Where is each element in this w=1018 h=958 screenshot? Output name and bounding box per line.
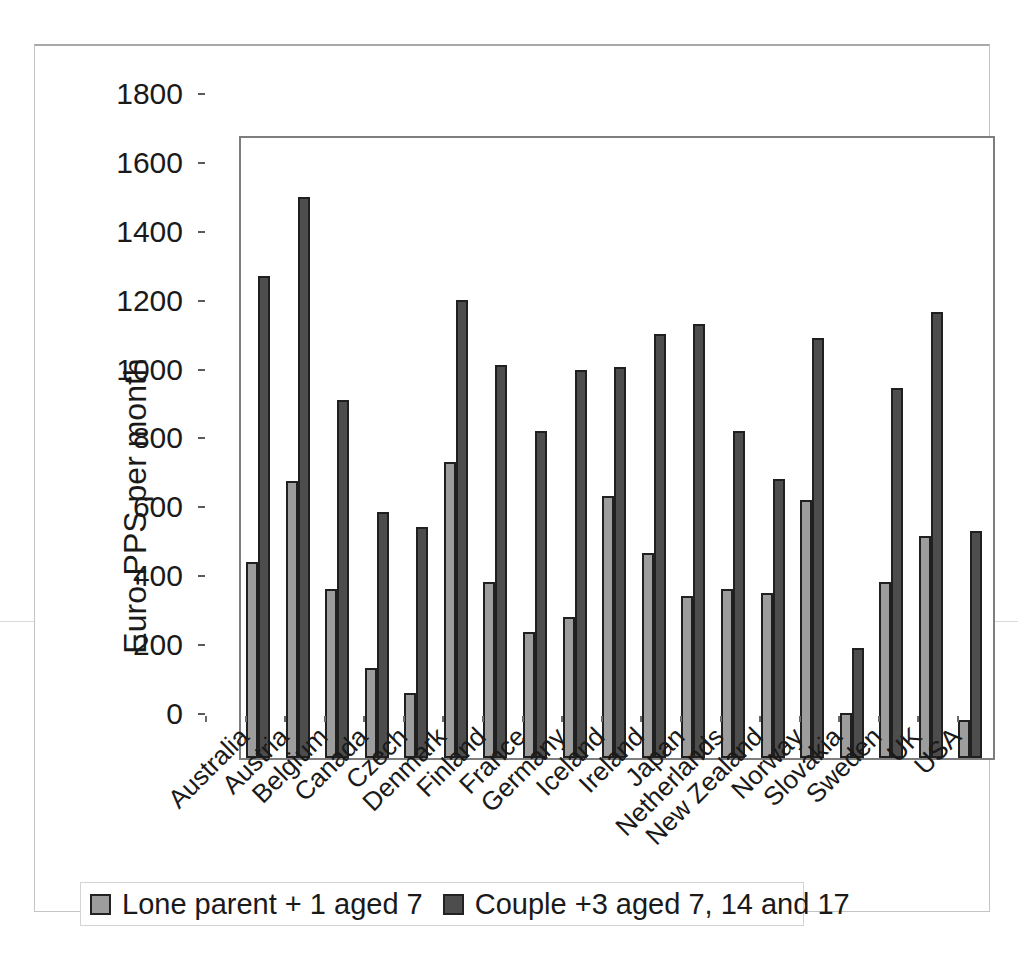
y-tick-label-400: 400 [53, 561, 183, 591]
y-tick-label-800: 800 [53, 423, 183, 453]
legend-swatch-lone-parent [90, 894, 111, 915]
bar-lone-parent-sweden [879, 582, 891, 758]
bar-couple-denmark [456, 300, 468, 758]
bar-couple-austria [298, 197, 310, 758]
bar-couple-usa [970, 531, 982, 758]
bar-couple-uk [931, 312, 943, 758]
y-tick-label-1600: 1600 [53, 148, 183, 178]
bars-layer [241, 138, 993, 758]
x-tick-mark [799, 716, 801, 722]
y-tick-mark [198, 644, 205, 646]
bar-couple-australia [258, 276, 270, 758]
bar-lone-parent-denmark [444, 462, 456, 758]
legend-swatch-couple [443, 894, 464, 915]
x-tick-mark [245, 716, 247, 722]
bar-couple-canada [377, 512, 389, 758]
y-tick-mark [198, 437, 205, 439]
x-tick-mark [680, 716, 682, 722]
y-tick-label-1000: 1000 [53, 355, 183, 385]
x-tick-mark [878, 716, 880, 722]
x-tick-mark [720, 716, 722, 722]
page: Euro-PPS per month 020040060080010001200… [0, 0, 1018, 958]
bar-couple-new-zealand [773, 479, 785, 758]
bar-couple-germany [575, 370, 587, 758]
y-tick-label-200: 200 [53, 630, 183, 660]
y-tick-mark [198, 93, 205, 95]
bar-couple-norway [812, 338, 824, 758]
bar-lone-parent-netherlands [721, 589, 733, 758]
legend-item-lone-parent: Lone parent + 1 aged 7 [90, 888, 423, 921]
bar-lone-parent-japan [681, 596, 693, 758]
x-tick-mark [957, 716, 959, 722]
legend: Lone parent + 1 aged 7 Couple +3 aged 7,… [80, 882, 804, 926]
plot-area [239, 136, 995, 760]
bar-couple-czech [416, 527, 428, 758]
bar-couple-iceland [614, 367, 626, 758]
bar-couple-france [535, 431, 547, 758]
x-tick-mark [284, 716, 286, 722]
y-tick-mark [198, 231, 205, 233]
x-tick-mark [917, 716, 919, 722]
x-tick-mark [601, 716, 603, 722]
bar-couple-netherlands [733, 431, 745, 758]
bar-couple-finland [495, 365, 507, 758]
y-tick-mark [198, 506, 205, 508]
x-tick-mark [561, 716, 563, 722]
legend-label-couple: Couple +3 aged 7, 14 and 17 [475, 888, 850, 921]
y-tick-label-1400: 1400 [53, 217, 183, 247]
bar-lone-parent-new-zealand [761, 593, 773, 758]
bar-couple-belgium [337, 400, 349, 758]
bar-couple-japan [693, 324, 705, 758]
y-tick-mark [198, 575, 205, 577]
bar-lone-parent-norway [800, 500, 812, 758]
y-tick-label-600: 600 [53, 492, 183, 522]
x-tick-mark [482, 716, 484, 722]
y-tick-mark [198, 713, 205, 715]
y-tick-label-1800: 1800 [53, 79, 183, 109]
y-tick-label-1200: 1200 [53, 286, 183, 316]
bar-lone-parent-finland [483, 582, 495, 758]
x-tick-mark [759, 716, 761, 722]
bar-lone-parent-austria [286, 481, 298, 758]
bar-lone-parent-belgium [325, 589, 337, 758]
x-tick-mark [363, 716, 365, 722]
x-tick-mark [522, 716, 524, 722]
y-tick-mark [198, 369, 205, 371]
x-tick-mark [442, 716, 444, 722]
x-tick-mark [403, 716, 405, 722]
y-tick-mark [198, 300, 205, 302]
bar-lone-parent-iceland [602, 496, 614, 758]
bar-lone-parent-uk [919, 536, 931, 758]
x-tick-mark [838, 716, 840, 722]
chart-figure: Euro-PPS per month 020040060080010001200… [34, 44, 990, 912]
y-tick-label-0: 0 [53, 699, 183, 729]
bar-lone-parent-ireland [642, 553, 654, 758]
x-tick-mark [640, 716, 642, 722]
x-tick-mark [205, 716, 207, 722]
legend-label-lone-parent: Lone parent + 1 aged 7 [122, 888, 423, 921]
y-tick-mark [198, 162, 205, 164]
bar-couple-ireland [654, 334, 666, 758]
x-tick-mark [324, 716, 326, 722]
legend-item-couple: Couple +3 aged 7, 14 and 17 [443, 888, 850, 921]
bar-lone-parent-australia [246, 562, 258, 758]
bar-couple-sweden [891, 388, 903, 758]
